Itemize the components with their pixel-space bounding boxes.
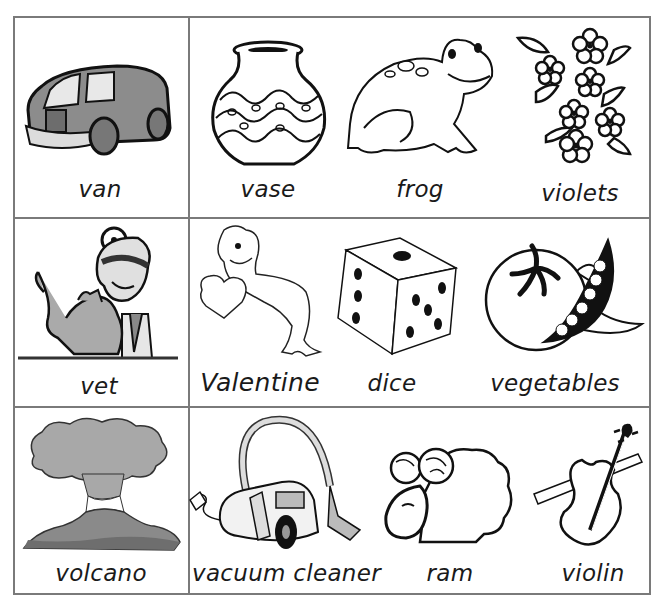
ram-icon — [380, 446, 520, 546]
word-label: vase — [208, 176, 328, 202]
word-label: violets — [525, 180, 635, 206]
row-divider-2 — [15, 406, 649, 408]
word-label: Valentine — [200, 368, 320, 397]
word-label: vacuum cleaner — [192, 560, 370, 586]
word-label: frog — [370, 176, 470, 202]
word-label: vegetables — [490, 370, 620, 396]
row-divider-1 — [15, 217, 649, 219]
valentine-icon — [196, 222, 326, 360]
vase-icon — [208, 40, 328, 170]
word-label: violin — [548, 560, 638, 586]
word-label: ram — [400, 560, 500, 586]
vacuum-cleaner-icon — [190, 416, 370, 556]
violin-icon — [534, 420, 644, 550]
word-label: dice — [352, 370, 432, 396]
van-icon — [22, 48, 172, 158]
word-label: volcano — [46, 560, 156, 586]
violets-icon — [518, 26, 633, 166]
dice-icon — [336, 238, 460, 354]
volcano-icon — [24, 416, 184, 556]
vegetables-icon — [484, 238, 644, 348]
vet-icon — [18, 222, 178, 364]
word-label: vet — [44, 373, 154, 399]
frog-icon — [344, 32, 504, 162]
word-label: van — [40, 176, 160, 202]
